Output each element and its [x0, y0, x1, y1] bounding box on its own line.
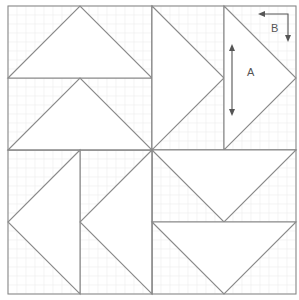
label-a: A — [247, 66, 255, 78]
quadrant-top-left — [8, 6, 152, 150]
arrowhead-left-icon — [258, 11, 265, 17]
quilt-diagram: A B — [0, 0, 299, 300]
annotation-b: B — [258, 11, 291, 42]
arrowhead-down-icon — [285, 35, 291, 42]
label-b: B — [271, 22, 278, 34]
quadrant-bottom-left — [8, 150, 152, 294]
diagram-canvas: A B — [0, 0, 299, 300]
quadrant-bottom-right — [152, 150, 296, 294]
